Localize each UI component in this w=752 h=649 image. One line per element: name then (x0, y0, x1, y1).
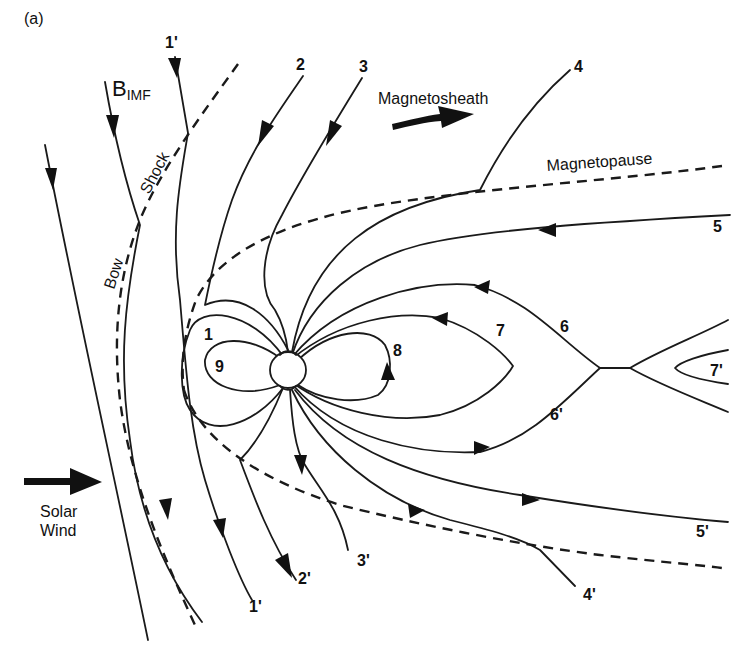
field-line-3 (264, 78, 362, 352)
solar-wind-label-2: Wind (40, 522, 76, 539)
label-3prime: 3' (357, 552, 370, 569)
label-9: 9 (215, 358, 224, 375)
label-5: 5 (713, 218, 722, 235)
label-7: 7 (496, 322, 505, 339)
bow-label: Bow (101, 256, 127, 291)
label-4: 4 (574, 58, 583, 75)
label-7prime: 7' (710, 362, 723, 379)
arrow-line-3 (326, 120, 342, 146)
magnetosphere-diagram: (a) (0, 0, 752, 649)
label-2: 2 (296, 56, 305, 73)
label-3: 3 (359, 58, 368, 75)
arrow-line-6 (474, 280, 490, 294)
label-1prime-top: 1' (165, 34, 178, 51)
arrow-4prime (408, 504, 425, 518)
earth (270, 352, 306, 388)
magnetosheath-arrow (392, 106, 474, 130)
field-line-2 (205, 76, 303, 350)
magnetopause-label: Magnetopause (546, 150, 653, 174)
field-line-1 (182, 315, 283, 426)
solar-wind-label-1: Solar (40, 503, 78, 520)
panel-label: (a) (24, 10, 44, 27)
b-imf-label: BIMF (112, 76, 151, 103)
field-line-1prime (175, 57, 252, 600)
field-line-8 (298, 333, 390, 400)
label-1: 1 (204, 326, 213, 343)
magnetopause-lower (184, 390, 722, 568)
field-line-7 (293, 315, 513, 418)
magnetosheath-label: Magnetosheath (378, 90, 488, 107)
field-line-3prime (290, 390, 348, 550)
imf-arrow-far-left (45, 168, 57, 190)
imf-arrow-bimf (106, 115, 119, 138)
label-8: 8 (393, 342, 402, 359)
field-line-5prime (295, 390, 728, 522)
arrow-line-5 (538, 223, 556, 237)
label-4prime: 4' (583, 586, 596, 603)
arrow-1prime-top (168, 58, 181, 78)
label-2prime: 2' (298, 570, 311, 587)
label-6: 6 (560, 318, 569, 335)
arrow-line-8 (381, 362, 395, 380)
arrow-2prime (275, 553, 292, 578)
bow-shock (117, 64, 238, 625)
imf-line-far-left (45, 145, 148, 640)
label-6prime: 6' (550, 406, 563, 423)
label-1prime-bottom: 1' (249, 598, 262, 615)
arrow-line-7 (432, 312, 448, 326)
arrow-line-6prime (474, 441, 490, 455)
field-line-6 (293, 284, 728, 368)
imf-arrow-left-down (159, 498, 172, 520)
solar-wind-arrow (24, 468, 102, 495)
label-5prime: 5' (696, 523, 709, 540)
shock-label: Shock (137, 148, 173, 196)
arrow-5prime (522, 493, 540, 506)
